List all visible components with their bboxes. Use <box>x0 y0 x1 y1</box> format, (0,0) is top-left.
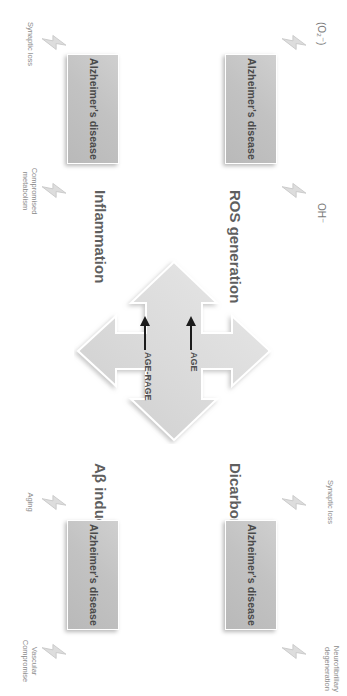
outcome-box-ros: Alzheimer's disease <box>225 54 277 164</box>
annotation-synaptic-loss-bottom: Synaptic loss <box>26 8 35 80</box>
outcome-box-dicarbonyls: Alzheimer's disease <box>225 520 277 630</box>
outcome-box-dicarbonyls-label: Alzheimer's disease <box>245 524 257 626</box>
annotation-neurofibrillary: Neurofibrillary degeneration <box>322 626 341 696</box>
lightning-bolt-icon <box>281 30 307 56</box>
outcome-box-abeta: Alzheimer's disease <box>67 520 119 630</box>
outcome-box-ros-label: Alzheimer's disease <box>245 58 257 160</box>
lightning-bolt-icon <box>41 639 67 665</box>
lightning-bolt-icon <box>281 639 307 665</box>
annotation-vascular-compromise: Vascular Compromise <box>20 623 39 696</box>
pathway-label-ros: ROS generation <box>227 190 244 303</box>
annotation-aging: Aging <box>26 472 35 532</box>
annotation-superoxide: (O₂⁻) <box>316 22 328 45</box>
lightning-bolt-icon <box>41 178 67 204</box>
annotation-synaptic-loss-top: Synaptic loss <box>326 466 335 538</box>
age-label: AGE <box>189 352 199 372</box>
four-way-arrow-graphic <box>74 258 274 444</box>
lightning-bolt-icon <box>41 30 67 56</box>
lightning-bolt-icon <box>281 490 307 516</box>
outcome-box-inflammation-label: Alzheimer's disease <box>87 58 99 160</box>
lightning-bolt-icon <box>281 178 307 204</box>
outcome-box-inflammation: Alzheimer's disease <box>67 54 119 164</box>
age-rage-label: AGE-RAGE <box>143 352 153 401</box>
annotation-compromised-metabolism: Compromised metabolism <box>20 155 39 227</box>
age-rage-arrow-icon <box>139 316 151 350</box>
age-arrow-icon <box>185 316 197 350</box>
pathway-label-inflammation: Inflammation <box>92 190 109 283</box>
outcome-box-abeta-label: Alzheimer's disease <box>87 524 99 626</box>
lightning-bolt-icon <box>41 490 67 516</box>
annotation-hydroxyl: OH⁻ <box>316 203 328 223</box>
